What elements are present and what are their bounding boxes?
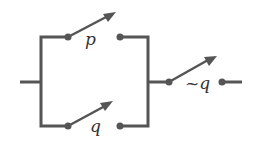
- switch-q-arrow-icon: [100, 101, 113, 111]
- switch-p: p: [65, 12, 124, 49]
- switch-not-q-label: ~q: [185, 73, 210, 93]
- switch-q-label: q: [90, 116, 101, 136]
- switch-p-label: p: [85, 29, 96, 49]
- switch-p-arrow-icon: [103, 12, 116, 22]
- switch-not-q: ~q: [166, 56, 226, 93]
- right-bus: [120, 37, 148, 126]
- switch-q: q: [65, 101, 124, 136]
- left-bus: [41, 37, 68, 126]
- circuit-diagram: p q ~q: [0, 0, 262, 145]
